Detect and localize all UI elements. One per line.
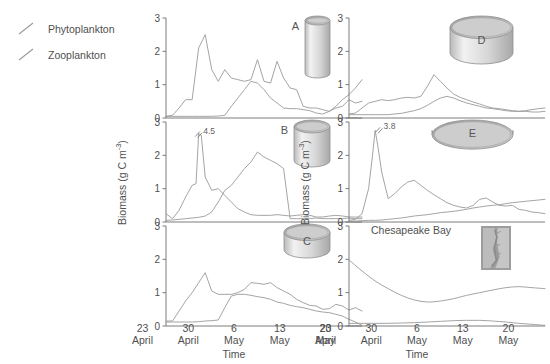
svg-text:1: 1 [337, 287, 343, 298]
mesocosm-cylinder-icon-E: E [432, 120, 513, 145]
series-zooplankton [349, 96, 545, 114]
panel-column-right: Biomass (g C m-3) 0123 D [283, 0, 523, 364]
svg-text:2: 2 [154, 254, 160, 265]
x-tick-3: 13May [443, 322, 483, 346]
series-phytoplankton [349, 260, 545, 302]
peak-value-label: 3.8 [384, 121, 396, 131]
x-tick-0: 23April [306, 322, 346, 346]
x-tick-1: 30April [168, 322, 208, 346]
svg-text:3: 3 [337, 13, 343, 24]
svg-text:3: 3 [154, 13, 160, 24]
x-axis-title: Time [319, 348, 515, 360]
svg-text:3: 3 [154, 117, 160, 128]
x-tick-2: 6May [397, 322, 437, 346]
line-sample-icon [16, 21, 42, 37]
mesocosm-cylinder-icon-D: D [450, 16, 513, 64]
svg-text:D: D [478, 34, 486, 46]
site-name-label: Chesapeake Bay [371, 224, 451, 236]
plot-D: 0123 [319, 12, 550, 126]
y-axis-title: Biomass (g C m-3) [297, 140, 311, 225]
y-axis-title: Biomass (g C m-3) [114, 140, 128, 225]
svg-text:2: 2 [337, 254, 343, 265]
x-tick-2: 6May [214, 322, 254, 346]
panel-D: 0123 D [319, 12, 515, 112]
x-tick-1: 30April [351, 322, 391, 346]
line-sample-icon [16, 47, 42, 63]
panel-chesapeake-bay: 0123 Chesapeake Bay [319, 220, 515, 320]
svg-text:2: 2 [154, 46, 160, 57]
svg-text:2: 2 [154, 150, 160, 161]
series-phytoplankton [349, 75, 545, 114]
svg-text:2: 2 [337, 46, 343, 57]
svg-text:1: 1 [337, 79, 343, 90]
panel-E: 0123 3.8 E [319, 116, 515, 216]
svg-text:3: 3 [154, 221, 160, 232]
svg-text:1: 1 [154, 79, 160, 90]
svg-text:1: 1 [154, 287, 160, 298]
svg-text:1: 1 [154, 183, 160, 194]
chesapeake-bay-map-icon [481, 226, 511, 270]
plot-F: 0123 [319, 220, 550, 334]
svg-text:3: 3 [337, 221, 343, 232]
x-tick-4: 20May [488, 322, 528, 346]
svg-text:2: 2 [337, 150, 343, 161]
svg-text:E: E [469, 127, 476, 139]
peak-value-label: 4.5 [203, 126, 215, 136]
legend-label-zooplankton: Zooplankton [42, 49, 106, 61]
svg-text:1: 1 [337, 183, 343, 194]
x-axis-right: 23April30April6May13May20MayTime [319, 322, 515, 364]
x-tick-0: 23April [123, 322, 163, 346]
svg-text:3: 3 [337, 117, 343, 128]
